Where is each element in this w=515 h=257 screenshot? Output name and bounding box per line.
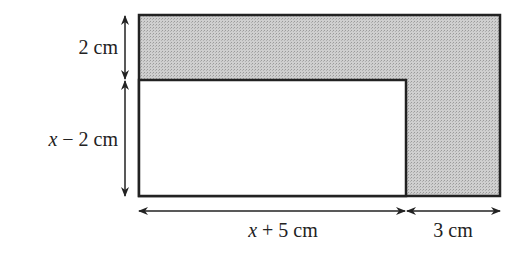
label-inner-width-rest: + 5 cm	[257, 219, 318, 241]
label-inner-height: x − 2 cm	[47, 128, 118, 150]
diagram: 2 cm x − 2 cm x + 5 cm 3 cm	[0, 0, 515, 257]
label-inner-width-var: x	[247, 219, 257, 241]
label-top-height: 2 cm	[79, 36, 119, 58]
inner-white-rect	[139, 80, 406, 196]
label-inner-height-var: x	[47, 128, 57, 150]
label-inner-height-rest: − 2 cm	[57, 128, 118, 150]
label-inner-width: x + 5 cm	[247, 219, 318, 241]
label-right-width: 3 cm	[433, 219, 473, 241]
